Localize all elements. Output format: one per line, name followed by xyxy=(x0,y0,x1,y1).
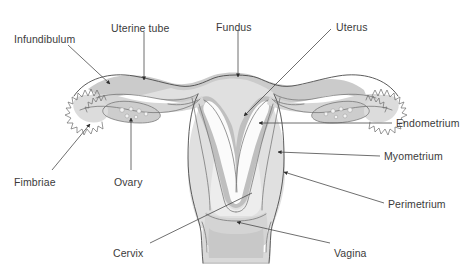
figure-canvas: Infundibulum Uterine tube Fundus Uterus … xyxy=(0,0,474,273)
label-endometrium: Endometrium xyxy=(396,117,460,129)
fimbriae-leader xyxy=(52,124,90,170)
label-infundibulum: Infundibulum xyxy=(14,33,75,45)
label-perimetrium: Perimetrium xyxy=(388,198,446,210)
label-uterine-tube: Uterine tube xyxy=(111,22,169,34)
tissue-fills xyxy=(73,72,399,262)
label-myometrium: Myometrium xyxy=(384,150,443,162)
label-vagina: Vagina xyxy=(334,247,367,259)
label-fimbriae: Fimbriae xyxy=(14,176,56,188)
perimetrium-leader xyxy=(284,172,384,203)
label-uterus: Uterus xyxy=(336,21,368,33)
myometrium-leader xyxy=(278,152,380,156)
infundibulum-leader xyxy=(68,45,110,84)
label-ovary: Ovary xyxy=(114,176,143,188)
label-cervix: Cervix xyxy=(113,247,143,259)
label-fundus: Fundus xyxy=(216,21,252,33)
